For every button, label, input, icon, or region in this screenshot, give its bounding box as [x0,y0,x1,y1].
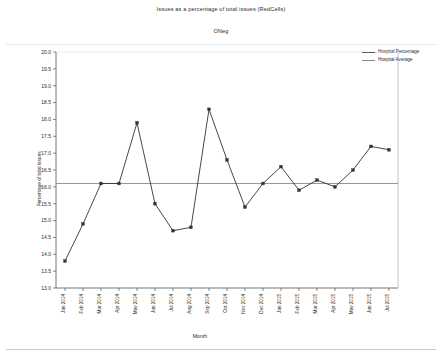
chart-container: Issues as a percentage of total issues (… [0,0,442,357]
footer-divider [6,349,436,350]
data-point-marker [100,182,103,185]
data-point-marker [226,158,229,161]
y-axis-tick-label: 18.5 [41,99,51,105]
x-axis-tick-label: Feb 2015 [295,294,300,314]
data-point-marker [370,145,373,148]
x-axis-tick-label: Sep 2014 [205,294,210,314]
y-axis-tick-label: 19.0 [41,83,51,89]
y-axis-tick-label: 16.5 [41,167,51,173]
y-axis-tick-label: 14.5 [41,234,51,240]
data-point-marker [352,169,355,172]
data-point-marker [190,226,193,229]
x-axis-tick-label: Oct 2014 [223,294,228,313]
data-point-marker [154,202,157,205]
y-axis-tick-label: 15.5 [41,201,51,207]
y-axis-tick-label: 13.5 [41,268,51,274]
x-axis-tick-label: Mar 2014 [97,294,102,314]
data-point-marker [172,229,175,232]
data-point-marker [82,223,85,226]
x-axis-tick-label: Nov 2014 [241,294,246,314]
y-axis-tick-label: 19.5 [41,66,51,72]
x-axis-tick-label: Jan 2015 [277,294,282,313]
x-axis-tick-label: Apr 2014 [115,294,120,313]
y-axis-tick-label: 20.0 [41,49,51,55]
data-point-marker [316,179,319,182]
y-axis-tick-label: 13.0 [41,285,51,291]
data-point-marker [280,165,283,168]
x-axis-tick-label: Feb 2014 [79,294,84,314]
series-line [65,109,389,261]
y-axis-tick-label: 17.5 [41,133,51,139]
data-point-marker [208,108,211,111]
x-axis-tick-label: Jan 2014 [61,294,66,313]
x-axis-tick-label: Apr 2015 [331,294,336,313]
x-axis-tick-label: Jul 2014 [169,294,174,312]
chart-plot-area: 13.013.514.014.515.015.516.016.517.017.5… [0,0,442,357]
x-axis-tick-label: Jun 2014 [151,294,156,313]
y-axis-tick-label: 18.0 [41,116,51,122]
y-axis-tick-label: 14.0 [41,251,51,257]
data-point-marker [136,121,139,124]
y-axis-tick-label: 17.0 [41,150,51,156]
y-axis-tick-label: 16.0 [41,184,51,190]
data-point-marker [298,189,301,192]
x-axis-tick-label: May 2014 [133,294,138,315]
x-axis-tick-label: Aug 2014 [187,294,192,314]
x-axis-tick-label: Dec 2014 [259,294,264,314]
x-axis-tick-label: Jul 2015 [385,294,390,312]
data-point-marker [118,182,121,185]
data-point-marker [262,182,265,185]
data-point-marker [244,206,247,209]
y-axis-tick-label: 15.0 [41,217,51,223]
data-point-marker [388,148,391,151]
data-point-marker [334,185,337,188]
x-axis-tick-label: Mar 2015 [313,294,318,314]
x-axis-tick-label: May 2015 [349,294,354,315]
x-axis-tick-label: Jun 2015 [367,294,372,313]
data-point-marker [64,260,67,263]
